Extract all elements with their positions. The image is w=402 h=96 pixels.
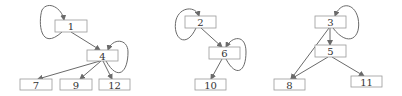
node-8: 8 [274, 79, 305, 91]
node-label: 1 [68, 21, 74, 32]
node-label: 2 [197, 17, 203, 28]
node-7: 7 [20, 79, 52, 91]
node-3: 3 [315, 16, 346, 28]
node-label: 3 [327, 17, 333, 28]
node-10: 10 [195, 79, 226, 91]
node-label: 4 [99, 51, 105, 62]
node-label: 11 [360, 77, 373, 88]
node-5: 5 [315, 45, 346, 57]
node-2: 2 [185, 16, 216, 28]
node-6: 6 [209, 47, 240, 59]
edge-2-to-6 [201, 28, 222, 47]
edge-1-to-4 [71, 32, 100, 50]
node-label: 7 [33, 80, 39, 91]
graph-b: 2 6 10 [175, 9, 246, 91]
edge-5-to-11 [332, 57, 364, 76]
edge-6-to-10 [211, 59, 222, 79]
node-label: 9 [73, 80, 79, 91]
node-1: 1 [55, 20, 87, 32]
graph-diagram: 1 4 7 9 12 2 6 [0, 0, 402, 96]
node-label: 12 [108, 80, 121, 91]
graph-c: 3 5 8 11 [274, 6, 382, 91]
edge-5-to-8 [291, 57, 328, 79]
node-4: 4 [87, 50, 118, 62]
node-label: 10 [204, 80, 217, 91]
node-11: 11 [351, 76, 382, 88]
node-12: 12 [99, 79, 130, 91]
graph-a: 1 4 7 9 12 [20, 5, 130, 90]
node-label: 6 [221, 48, 227, 59]
node-label: 5 [327, 46, 333, 57]
node-label: 8 [286, 80, 292, 91]
node-9: 9 [60, 79, 92, 91]
